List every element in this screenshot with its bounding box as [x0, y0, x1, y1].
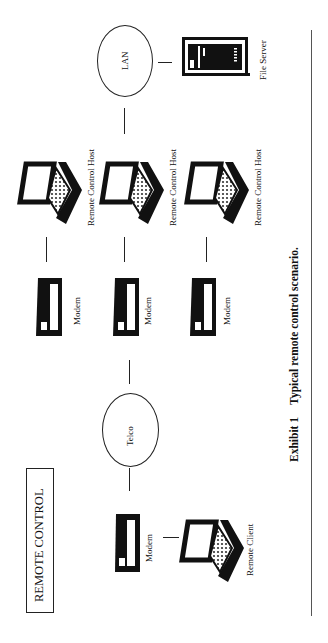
connector-host2-modem2 — [124, 237, 125, 262]
connector-lan-hosts — [124, 108, 125, 134]
modem-1-label: Modem — [72, 297, 82, 325]
laptop-icon — [18, 160, 84, 226]
file-server-label: File Server — [258, 40, 268, 80]
modem-3-label: Modem — [222, 297, 232, 325]
modem-icon — [36, 278, 64, 336]
connector-telco-client-modem — [129, 468, 130, 491]
connector-lan-server — [158, 62, 172, 63]
title-box-label: REMOTE CONTROL — [32, 488, 47, 602]
connector-host3-modem3 — [206, 237, 207, 262]
telco-label: Telco — [125, 426, 135, 446]
client-label: Remote Client — [245, 524, 255, 576]
laptop-icon — [180, 518, 246, 584]
connector-host1-modem1 — [46, 237, 47, 262]
host-3-label: Remote Control Host — [253, 149, 263, 226]
caption: Exhibit 1Typical remote control scenario… — [288, 247, 300, 462]
laptop-icon — [100, 160, 166, 226]
lan-label: LAN — [120, 52, 130, 71]
modem-icon — [190, 278, 218, 336]
connector-modems-telco — [129, 360, 130, 384]
caption-text: Typical remote control scenario. — [288, 247, 300, 405]
server-icon — [180, 36, 252, 78]
caption-exhibit: Exhibit 1 — [288, 417, 300, 462]
modem-2-label: Modem — [143, 297, 153, 325]
page-rule — [311, 30, 312, 616]
modem-icon — [113, 278, 141, 336]
client-modem-label: Modem — [144, 534, 154, 562]
modem-icon — [115, 514, 141, 572]
connector-client-modem-laptop — [163, 537, 179, 538]
host-1-label: Remote Control Host — [86, 149, 96, 226]
host-2-label: Remote Control Host — [168, 149, 178, 226]
laptop-icon — [185, 160, 251, 226]
